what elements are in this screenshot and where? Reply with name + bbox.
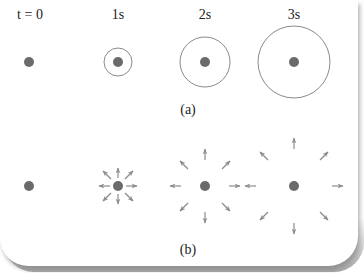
source-dot [289,57,299,67]
source-dot [113,181,123,191]
time-label-3s: 3s [288,7,300,22]
source-dot [113,57,123,67]
source-dot [200,57,210,67]
panel-a-label: (a) [180,102,196,118]
panel-b [24,138,343,234]
time-label-0: t = 0 [17,7,43,22]
time-label-1s: 1s [112,7,124,22]
source-dot [24,57,34,67]
source-dot [200,181,210,191]
panel-a [24,26,330,98]
time-label-2s: 2s [199,7,211,22]
panel-b-label: (b) [180,242,197,258]
source-dot [24,181,34,191]
source-dot [289,181,299,191]
